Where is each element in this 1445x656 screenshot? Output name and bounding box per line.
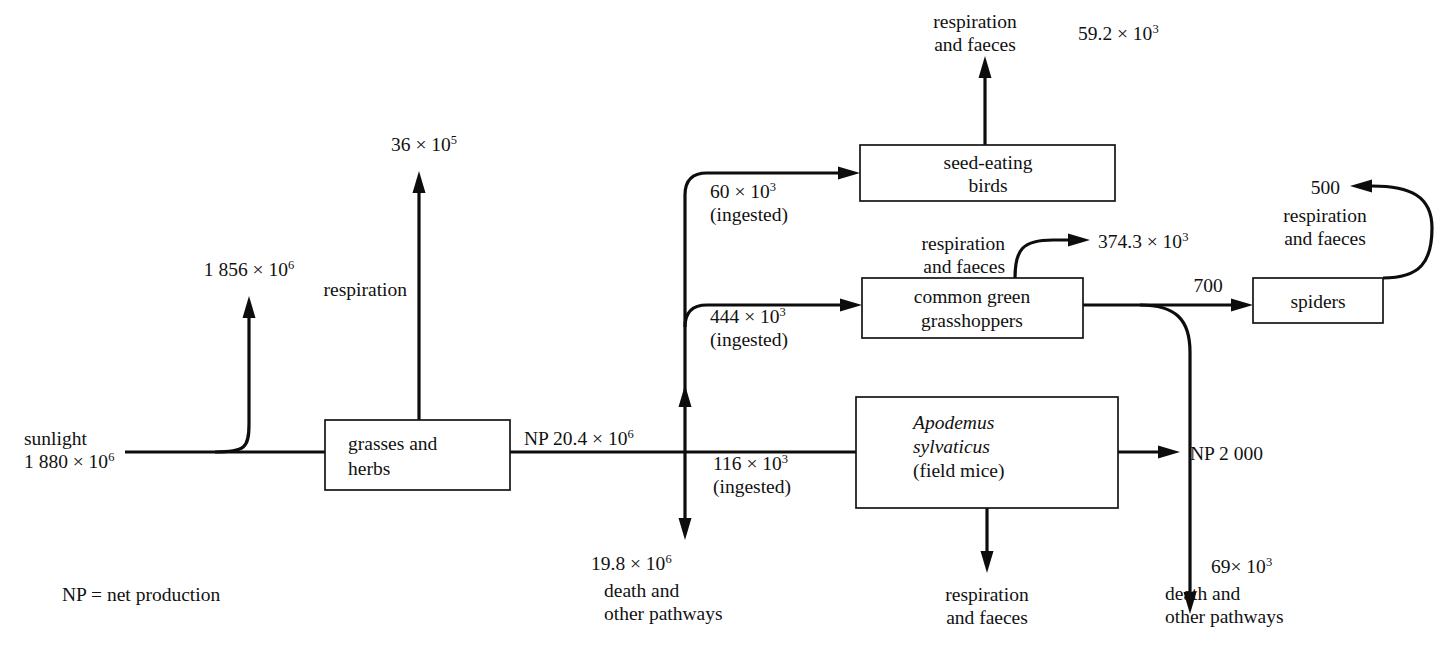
net-production-value: NP 20.4 × 106 [524,427,634,449]
footnote-np-definition: NP = net production [62,584,220,605]
box-grasses-label-line1: grasses and [348,433,438,454]
to-birds-note: (ingested) [710,204,788,226]
junction-up-arrowhead [679,385,692,407]
box-mice-label-genus: Apodemus [911,412,994,433]
to-mice-note: (ingested) [713,476,791,498]
spiders-respiration-label-line1: respiration [1283,205,1367,226]
box-mice-label-species: sylvaticus [913,436,990,457]
mice-respiration-arrowhead [981,551,994,573]
spiders-respiration-arrowhead [1350,180,1372,193]
to-grasshoppers-value: 444 × 103 [710,305,786,327]
animal-death-label-line2: other pathways [1165,606,1284,627]
birds-respiration-value: 59.2 × 103 [1078,22,1159,44]
spiders-respiration-value: 500 [1311,177,1340,198]
sunlight-value: 1 880 × 106 [24,450,114,472]
grasshopper-respiration-label-line2: and faeces [923,256,1005,277]
to-birds-value: 60 × 103 [710,180,776,202]
diagram-canvas: grasses and herbs seed-eating birds comm… [0,0,1445,656]
box-grasses-label-line2: herbs [348,458,390,479]
mice-np-arrowhead [1158,446,1180,459]
box-grasshoppers-label-line1: common green [914,286,1031,307]
mice-respiration-label-line2: and faeces [946,607,1028,628]
to-spiders-value: 700 [1193,275,1222,296]
box-birds-label-line2: birds [969,175,1008,196]
grasshopper-respiration-label-line1: respiration [922,233,1006,254]
animal-death-value: 69× 103 [1211,555,1272,577]
plant-death-value: 19.8 × 106 [591,552,672,574]
plant-death-label-line2: other pathways [604,603,723,624]
box-spiders-label: spiders [1290,291,1345,312]
grasshopper-respiration-curve [1015,240,1068,278]
box-grasshoppers-label-line2: grasshoppers [921,310,1023,331]
grasshopper-respiration-value: 374.3 × 103 [1098,230,1188,252]
box-birds-label-line1: seed-eating [944,152,1033,173]
box-mice-label-common: (field mice) [913,460,1005,482]
plant-death-label-line1: death and [604,580,680,601]
plant-respiration-arrowhead [413,171,426,193]
spiders-respiration-loop [1372,186,1432,278]
mice-np-value: NP 2 000 [1190,443,1263,464]
plant-death-arrowhead [679,518,692,540]
sunlight-label: sunlight [24,428,87,449]
birds-respiration-label-line1: respiration [933,11,1017,32]
energy-flow-diagram: grasses and herbs seed-eating birds comm… [0,0,1445,656]
birds-respiration-label-line2: and faeces [934,34,1016,55]
birds-respiration-arrowhead [979,56,992,78]
mice-respiration-label-line1: respiration [945,584,1029,605]
spiders-respiration-label-line2: and faeces [1284,228,1366,249]
to-birds-arrowhead [838,167,860,180]
animal-death-label-line1: death and [1165,583,1241,604]
to-grasshoppers-note: (ingested) [710,329,788,351]
reflected-energy-curve [215,318,249,452]
plant-respiration-value: 36 × 105 [391,133,457,155]
to-grasshoppers-arrowhead [840,299,862,312]
grasshopper-respiration-arrowhead [1068,234,1090,247]
plant-respiration-label: respiration [324,279,408,300]
box-grasses-and-herbs[interactable] [325,420,510,490]
reflected-energy-arrowhead [243,296,256,318]
reflected-energy-value: 1 856 × 106 [204,258,294,280]
to-mice-value: 116 × 103 [713,452,788,474]
to-spiders-arrowhead [1231,299,1253,312]
